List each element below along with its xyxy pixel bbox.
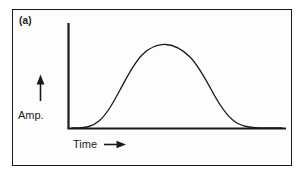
- y-axis-label: Amp.: [18, 110, 44, 121]
- figure-root: (a) Amp. Time: [0, 0, 304, 176]
- figure-border-frame: [12, 9, 292, 166]
- x-axis-label: Time: [73, 139, 97, 150]
- panel-label: (a): [19, 16, 32, 26]
